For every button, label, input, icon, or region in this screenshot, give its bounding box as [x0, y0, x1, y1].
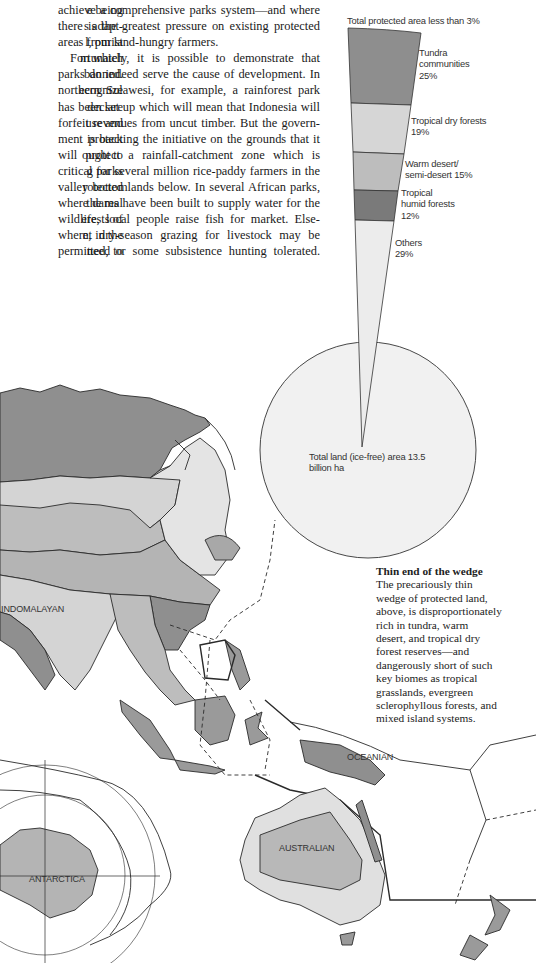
caption-line: desert, and tropical dry: [376, 632, 536, 645]
oceanian-dashed: [455, 810, 536, 905]
philippines: [225, 640, 250, 690]
label-line: Tundra: [419, 47, 469, 58]
wedge-humid-forests: [354, 190, 398, 221]
caption-line: dangerously short of such: [376, 659, 536, 672]
wedge-warm-desert: [353, 152, 404, 191]
sumatra: [120, 700, 175, 760]
label-line: 12%: [401, 210, 455, 221]
wedge-total-protected-label: Total protected area less than 3%: [347, 15, 480, 26]
wedge-dry-forests: [351, 103, 411, 154]
label-line: Tropical dry forests: [411, 115, 486, 126]
illustration-layer: [0, 0, 536, 963]
map-label-indomalayan: INDOMALAYAN: [1, 604, 64, 614]
caption-title: Thin end of the wedge: [376, 565, 536, 578]
label-line: 25%: [419, 70, 469, 81]
caption-line: The precariously thin: [376, 578, 536, 591]
total-land-label: Total land (ice-free) area 13.5 billion …: [309, 451, 425, 474]
wedge-label-others: Others 29%: [395, 237, 422, 260]
caption-line: grasslands, evergreen: [376, 686, 536, 699]
label-line: humid forests: [401, 198, 455, 209]
map-label-oceanian: OCEANIAN: [347, 752, 393, 762]
label-line: Warm desert/: [405, 158, 472, 169]
caption-line: sclerophyllous forests, and: [376, 699, 536, 712]
label-line: billion ha: [309, 462, 425, 473]
antarctica-landmass: [0, 828, 98, 918]
new-zealand: [460, 895, 510, 960]
caption-line: above, is disproportionately: [376, 605, 536, 618]
wedge-tundra: [348, 28, 421, 105]
caption-line: rich in tundra, warm: [376, 619, 536, 632]
label-line: Tropical: [401, 187, 455, 198]
caption-line: forest reserves—and: [376, 645, 536, 658]
figure-caption: Thin end of the wedge The precariously t…: [376, 565, 536, 726]
wedge-label-tundra: Tundra communities 25%: [419, 47, 469, 81]
label-line: 19%: [411, 126, 486, 137]
label-line: 29%: [395, 248, 422, 259]
label-line: communities: [419, 58, 469, 69]
wedge-label-warm-desert: Warm desert/ semi-desert 15%: [405, 158, 472, 181]
map-label-antarctica: ANTARCTICA: [29, 874, 85, 884]
label-line: Total land (ice-free) area 13.5: [309, 451, 425, 462]
caption-line: mixed island systems.: [376, 712, 536, 725]
caption-line: key biomes as tropical: [376, 672, 536, 685]
java: [175, 760, 225, 774]
map-label-australian: AUSTRALIAN: [279, 843, 335, 853]
caption-line: wedge of protected land,: [376, 592, 536, 605]
wedge-label-dry-forests: Tropical dry forests 19%: [411, 115, 486, 138]
tasmania: [340, 932, 355, 945]
label-line: semi-desert 15%: [405, 169, 472, 180]
wedge-label-humid-forests: Tropical humid forests 12%: [401, 187, 455, 221]
label-line: Others: [395, 237, 422, 248]
